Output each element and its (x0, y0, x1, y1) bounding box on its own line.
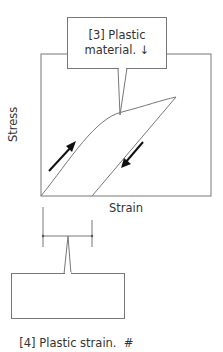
callout-3-line2: material. ↓ (68, 43, 166, 58)
pointer-join-4 (65, 272, 71, 274)
callout-plastic-strain: [4] Plastic strain. # (11, 273, 125, 319)
callout-3-pointer (118, 68, 127, 115)
unloading-line (92, 97, 176, 196)
callout-plastic-material: [3] Plastic material. ↓ (67, 17, 167, 69)
x-axis-label: Strain (109, 201, 143, 215)
dimension-left-dot (42, 235, 44, 237)
callout-3-line1: [3] Plastic (68, 28, 166, 43)
unloading-arrow-icon (125, 142, 143, 163)
y-axis-label: Stress (6, 107, 20, 142)
loading-curve (41, 97, 176, 196)
callout-4-text: [4] Plastic strain. # (19, 336, 133, 350)
callout-4-pointer (64, 236, 71, 274)
pointer-join-3 (119, 68, 126, 70)
dimension-right-dot (91, 235, 93, 237)
